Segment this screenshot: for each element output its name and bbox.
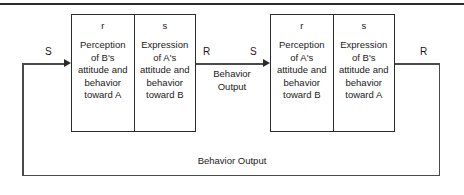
cell-left-s: s Expression of A's attitude and behavio… [134, 15, 196, 131]
label-behavior-output-bottom: Behavior Output [176, 155, 288, 168]
label-s-middle: S [250, 46, 257, 58]
cell-tag-r-right: r [274, 20, 330, 32]
cell-body-s-left: Expression of A's attitude and behavior … [138, 39, 193, 102]
output-line-right [395, 63, 440, 65]
cell-tag-s-right: s [337, 20, 392, 32]
cell-body-r-left: Perception of B's attitude and behavior … [75, 39, 131, 102]
cell-tag-r-left: r [75, 20, 131, 32]
input-arrowhead-left [64, 59, 71, 67]
label-r-middle: R [203, 46, 210, 58]
cell-right-s: s Expression of B's attitude and behavio… [333, 15, 395, 131]
feedback-line-right-vertical [439, 63, 441, 176]
middle-arrowhead [263, 59, 270, 67]
feedback-line-bottom-horizontal [22, 175, 440, 177]
middle-connector-line [196, 63, 264, 65]
cell-left-r: r Perception of B's attitude and behavio… [72, 15, 134, 131]
unit-box-left: r Perception of B's attitude and behavio… [71, 14, 196, 132]
cell-body-r-right: Perception of A's attitude and behavior … [274, 39, 330, 102]
cell-body-s-right: Expression of B's attitude and behavior … [337, 39, 392, 102]
diagram-canvas: r Perception of B's attitude and behavio… [0, 0, 464, 195]
cell-tag-s-left: s [138, 20, 193, 32]
cell-right-r: r Perception of A's attitude and behavio… [271, 15, 333, 131]
input-arrow-line-left [22, 63, 65, 65]
feedback-line-left-vertical [22, 63, 24, 176]
unit-box-right: r Perception of A's attitude and behavio… [270, 14, 395, 132]
top-border-rule [0, 3, 464, 5]
label-s-left: S [45, 46, 52, 58]
label-behavior-output-middle: Behavior Output [200, 68, 264, 93]
label-r-right: R [420, 46, 427, 58]
